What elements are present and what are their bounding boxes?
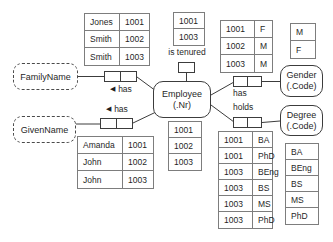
- table-cell: 1003: [219, 164, 253, 180]
- role-pair-givenname-has: [100, 118, 133, 129]
- predicate-label-family-has: ◀ has: [104, 84, 138, 94]
- table-row: 1002M: [221, 38, 272, 55]
- value-type-familyname: FamilyName: [13, 63, 78, 90]
- table-row: 1003M: [221, 55, 272, 72]
- degree-code-table: BABEngBSMSPhD: [285, 143, 319, 225]
- table-cell: M: [255, 38, 272, 55]
- table-row: BA: [286, 144, 318, 160]
- entity-name: Gender: [286, 70, 316, 81]
- table-cell: 1001: [219, 148, 253, 164]
- table-cell: PhD: [253, 148, 272, 164]
- value-type-label: FamilyName: [20, 72, 71, 82]
- entity-gender: Gender (.Code): [280, 65, 323, 97]
- table-cell: BEng: [286, 160, 318, 176]
- table-cell: John: [78, 154, 123, 171]
- gender-code-table: MF: [290, 23, 316, 59]
- table-row: Jones1001: [85, 14, 149, 31]
- predicate-label-is-tenured: is tenured: [163, 47, 211, 57]
- table-row: 1001: [174, 13, 204, 29]
- table-cell: BA: [286, 144, 318, 160]
- role-pair-degree-holds: [233, 117, 262, 128]
- employee-id-table: 100110021003: [168, 121, 202, 171]
- table-cell: 1003: [169, 154, 201, 170]
- table-cell: 1003: [219, 212, 253, 228]
- role-direction-arrow-icon: ◀: [106, 104, 111, 114]
- table-cell: MS: [286, 192, 318, 208]
- table-row: 1001: [169, 122, 201, 138]
- table-row: 1003: [169, 154, 201, 170]
- table-row: 1003BS: [219, 180, 272, 196]
- given-name-fact-table: Amanda1001John1002John1003: [77, 136, 154, 189]
- predicate-text: has: [114, 104, 128, 114]
- table-row: BS: [286, 176, 318, 192]
- table-row: Smith1002: [85, 31, 149, 48]
- table-cell: Amanda: [78, 137, 123, 154]
- table-cell: John: [78, 171, 123, 188]
- role-box: [247, 76, 262, 87]
- table-row: 1002: [169, 138, 201, 154]
- table-cell: 1001: [221, 21, 255, 38]
- table-cell: 1002: [169, 138, 201, 154]
- table-cell: 1002: [221, 38, 255, 55]
- entity-name: Degree: [287, 110, 317, 121]
- orm-diagram: Jones1001Smith1002Smith1003 10011003 100…: [0, 0, 333, 242]
- role-box: [104, 71, 121, 82]
- table-row: John1003: [78, 171, 153, 188]
- table-cell: 1001: [169, 122, 201, 138]
- table-cell: BS: [286, 176, 318, 192]
- table-row: 1003: [174, 29, 204, 45]
- role-box: [233, 117, 248, 128]
- table-row: MS: [286, 192, 318, 208]
- table-row: 1003MS: [219, 196, 272, 212]
- table-row: PhD: [286, 208, 318, 224]
- role-pair-gender-has: [233, 76, 262, 87]
- entity-degree: Degree (.Code): [280, 105, 323, 136]
- table-cell: 1002: [120, 31, 149, 48]
- table-cell: PhD: [286, 208, 318, 224]
- table-cell: 1003: [120, 48, 149, 65]
- table-row: John1002: [78, 154, 153, 171]
- table-cell: BEng: [253, 164, 272, 180]
- table-cell: Jones: [85, 14, 120, 31]
- table-row: F: [291, 41, 315, 58]
- table-cell: 1002: [123, 154, 153, 171]
- degree-fact-table: 1001BA1001PhD1003BEng1003BS1003MS1003PhD: [218, 131, 273, 229]
- role-box: [120, 71, 137, 82]
- entity-employee: Employee (.Nr): [153, 81, 211, 118]
- role-box: [233, 76, 248, 87]
- table-cell: MS: [253, 196, 272, 212]
- entity-ref-mode: (.Code): [286, 81, 316, 92]
- table-cell: 1003: [219, 180, 253, 196]
- gender-fact-table: 1001F1002M1003M: [220, 20, 273, 73]
- table-row: 1001BA: [219, 132, 272, 148]
- table-cell: F: [291, 41, 315, 58]
- entity-ref-mode: (.Nr): [173, 100, 191, 111]
- predicate-text: is tenured: [168, 47, 205, 57]
- table-row: M: [291, 24, 315, 41]
- entity-name: Employee: [162, 89, 202, 100]
- table-row: Amanda1001: [78, 137, 153, 154]
- table-cell: 1001: [120, 14, 149, 31]
- value-type-givenname: GivenName: [13, 116, 76, 143]
- table-row: Smith1003: [85, 48, 149, 65]
- predicate-text: has: [233, 88, 247, 98]
- tenured-fact-table: 10011003: [173, 12, 205, 46]
- table-row: 1003BEng: [219, 164, 272, 180]
- table-row: 1003PhD: [219, 212, 272, 228]
- table-cell: Smith: [85, 31, 120, 48]
- predicate-label-degree-holds: holds: [233, 102, 253, 112]
- table-cell: 1001: [174, 13, 204, 29]
- role-box: [247, 117, 262, 128]
- entity-ref-mode: (.Code): [286, 121, 316, 132]
- predicate-text: holds: [233, 102, 253, 112]
- predicate-text: has: [118, 84, 132, 94]
- role-direction-arrow-icon: ◀: [110, 84, 115, 94]
- family-name-fact-table: Jones1001Smith1002Smith1003: [84, 13, 150, 66]
- table-cell: 1003: [221, 55, 255, 72]
- table-cell: F: [255, 21, 272, 38]
- table-cell: M: [291, 24, 315, 41]
- role-box: [116, 118, 133, 129]
- table-cell: 1003: [123, 171, 153, 188]
- table-cell: Smith: [85, 48, 120, 65]
- table-row: 1001PhD: [219, 148, 272, 164]
